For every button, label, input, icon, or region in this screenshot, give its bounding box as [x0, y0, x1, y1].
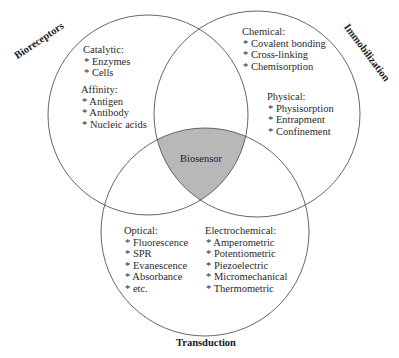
list-item: * Chemisorption: [242, 61, 326, 73]
list-item: * Fluorescence: [124, 237, 188, 249]
group-heading: Catalytic:: [83, 44, 130, 56]
list-item: * Nucleic acids: [81, 119, 147, 131]
transduction-label: Transduction: [166, 337, 246, 348]
list-item: * Covalent bonding: [242, 38, 326, 50]
biosensor-label: Biosensor: [173, 153, 229, 164]
venn-circles: [0, 0, 399, 358]
group-heading: Chemical:: [242, 26, 326, 38]
physical-group: Physical: * Physisorption * Entrapment *…: [267, 91, 334, 137]
list-item: * Potentiometric: [205, 248, 287, 260]
list-item: * Confinement: [267, 126, 334, 138]
venn-diagram: Bioreceptors Immobilization Transduction…: [0, 0, 399, 358]
list-item: * Cross-linking: [242, 49, 326, 61]
list-item: * etc.: [124, 283, 188, 295]
list-item: * Physisorption: [267, 103, 334, 115]
list-item: * Amperometric: [205, 237, 287, 249]
list-item: * SPR: [124, 248, 188, 260]
list-item: * Evanescence: [124, 260, 188, 272]
list-item: * Piezoelectric: [205, 260, 287, 272]
group-heading: Affinity:: [81, 84, 147, 96]
electrochemical-group: Electrochemical: * Amperometric * Potent…: [205, 225, 287, 295]
list-item: * Thermometric: [205, 283, 287, 295]
chemical-group: Chemical: * Covalent bonding * Cross-lin…: [242, 26, 326, 72]
list-item: * Antigen: [81, 96, 147, 108]
optical-group: Optical: * Fluorescence * SPR * Evanesce…: [124, 225, 188, 295]
list-item: * Absorbance: [124, 271, 188, 283]
list-item: * Antibody: [81, 107, 147, 119]
list-item: * Entrapment: [267, 114, 334, 126]
list-item: * Micromechanical: [205, 271, 287, 283]
list-item: * Cells: [83, 67, 130, 79]
catalytic-group: Catalytic: * Enzymes * Cells: [83, 44, 130, 79]
group-heading: Physical:: [267, 91, 334, 103]
group-heading: Electrochemical:: [205, 225, 287, 237]
affinity-group: Affinity: * Antigen * Antibody * Nucleic…: [81, 84, 147, 130]
group-heading: Optical:: [124, 225, 188, 237]
list-item: * Enzymes: [83, 56, 130, 68]
